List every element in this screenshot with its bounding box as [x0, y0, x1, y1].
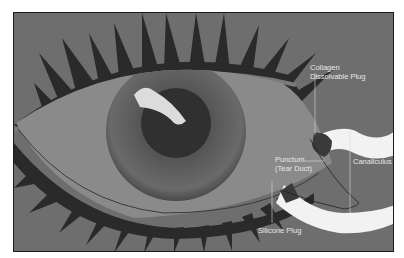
- eye-illustration: [14, 13, 394, 252]
- punctum-label: Punctum (Tear Duct): [275, 156, 312, 173]
- silicone-plug-label: Silicone Plug: [258, 227, 301, 236]
- collagen-plug-label: Collagen Dissolvable Plug: [310, 64, 365, 81]
- canaliculus-label: Canaliculus: [353, 158, 392, 167]
- eye-diagram-frame: Collagen Dissolvable Plug Punctum (Tear …: [13, 12, 394, 252]
